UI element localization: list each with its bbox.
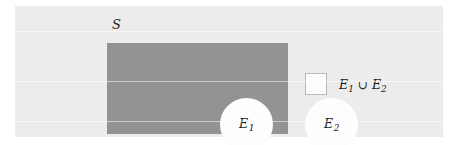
legend-second-subscript: 2 — [381, 84, 387, 94]
union-operator: ∪ — [358, 78, 368, 92]
event-circle-e2: E2 — [305, 98, 358, 145]
event-label-e2-base: E — [324, 116, 333, 131]
event-label-e1: E1 — [239, 116, 254, 131]
figure-panel: S E1 E2 E1∪E2 — [15, 6, 443, 137]
sample-space-label: S — [112, 18, 121, 31]
legend-first-subscript: 1 — [348, 84, 354, 94]
venn-diagram-figure: S E1 E2 E1∪E2 — [0, 0, 455, 145]
legend-label: E1∪E2 — [339, 77, 387, 92]
sample-space-rectangle: E1 E2 — [107, 43, 288, 134]
event-label-e1-subscript: 1 — [249, 123, 255, 133]
event-label-e2: E2 — [324, 116, 339, 131]
union-swatch-icon — [305, 73, 327, 95]
event-label-e1-base: E — [239, 116, 248, 131]
legend: E1∪E2 — [305, 73, 387, 95]
legend-first-base: E — [339, 77, 348, 92]
event-circle-e1: E1 — [220, 98, 273, 145]
legend-second-base: E — [372, 77, 381, 92]
event-label-e2-subscript: 2 — [334, 123, 340, 133]
